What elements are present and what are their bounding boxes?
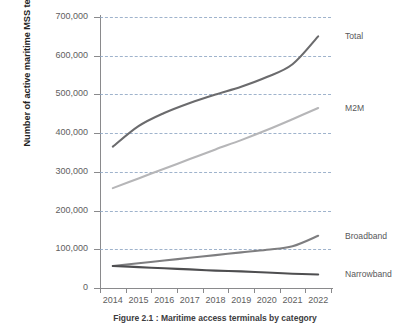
x-axis-tick-mark <box>305 288 306 293</box>
y-axis-tick-label: 600,000 <box>30 50 88 60</box>
x-axis-tick-mark <box>228 288 229 293</box>
series-label-broadband: Broadband <box>345 231 387 241</box>
gridline <box>100 17 331 18</box>
x-axis-line <box>100 288 333 289</box>
x-axis-tick-mark <box>177 288 178 293</box>
gridline <box>100 211 331 212</box>
gridline <box>100 249 331 250</box>
x-axis-tick-label: 2022 <box>301 295 335 305</box>
gridline <box>100 56 331 57</box>
y-axis-tick-label: 700,000 <box>30 11 88 21</box>
plot-area <box>100 17 331 288</box>
figure-caption: Figure 2.1 : Maritime access terminals b… <box>80 313 350 323</box>
y-axis-tick-label: 200,000 <box>30 205 88 215</box>
x-axis-tick-mark <box>203 288 204 293</box>
y-axis-tick-label: 300,000 <box>30 166 88 176</box>
y-axis-tick-label: 400,000 <box>30 127 88 137</box>
y-axis-tick-label: 500,000 <box>30 88 88 98</box>
y-axis-tick-label: 0 <box>30 282 88 292</box>
gridline <box>100 133 331 134</box>
x-axis-tick-mark <box>100 288 101 293</box>
x-axis-tick-mark <box>126 288 127 293</box>
series-label-total: Total <box>345 31 363 41</box>
x-axis-tick-mark <box>280 288 281 293</box>
x-axis-tick-mark <box>151 288 152 293</box>
y-axis-tick-label: 100,000 <box>30 243 88 253</box>
series-label-narrowband: Narrowband <box>345 269 392 279</box>
x-axis-tick-mark <box>254 288 255 293</box>
gridline <box>100 172 331 173</box>
x-axis-tick-mark <box>331 288 332 293</box>
gridline <box>100 94 331 95</box>
series-label-m2m: M2M <box>345 103 364 113</box>
